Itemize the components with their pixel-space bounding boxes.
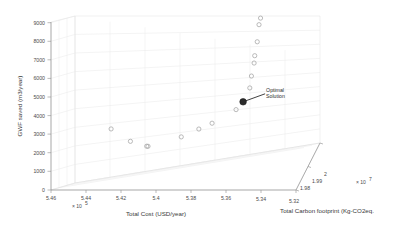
y-tick-label: 8000 <box>33 38 45 44</box>
scatter-point[interactable] <box>255 40 259 44</box>
y-tick-label: 9000 <box>33 20 45 26</box>
y-tick-label: 0 <box>42 187 45 193</box>
z-exponent-base: × 10 <box>356 179 366 185</box>
x-tick-label: 5.34 <box>256 196 266 202</box>
floor-grid <box>51 143 320 190</box>
scatter-point[interactable] <box>252 61 256 65</box>
x-tick-label: 5.32 <box>289 198 299 204</box>
scatter-point[interactable] <box>210 121 214 125</box>
scatter-point[interactable] <box>197 127 201 131</box>
z-tick-label: 1.98 <box>300 185 310 191</box>
scatter-point[interactable] <box>258 16 262 20</box>
y-tick-label: 3000 <box>33 131 45 137</box>
z-tick-label: 1.99 <box>312 178 322 184</box>
x-axis-title: Total Cost (USD/year) <box>126 210 186 217</box>
scatter-point[interactable] <box>109 127 113 131</box>
y-tick-label: 7000 <box>33 57 45 63</box>
x-exponent-base: × 10 <box>72 203 82 209</box>
x-tick-label: 5.38 <box>186 195 196 201</box>
x-exponent-power: 5 <box>85 200 88 206</box>
x-tick-label: 5.36 <box>221 195 231 201</box>
left-wall-grid <box>51 16 75 190</box>
scatter-point[interactable] <box>257 23 261 27</box>
y-axis-ticks <box>48 23 52 190</box>
optimal-solution-label-line2: Solution <box>266 93 285 99</box>
figure-3d-scatter-plot: 0 1000 2000 3000 4000 5000 6000 7000 800… <box>0 0 393 232</box>
optimal-solution-marker[interactable] <box>240 98 247 105</box>
y-axis-title: GWF saved (m3/year) <box>16 76 23 137</box>
plot-canvas: 0 1000 2000 3000 4000 5000 6000 7000 800… <box>0 0 393 232</box>
y-tick-label: 6000 <box>33 75 45 81</box>
z-tick-label: 2 <box>324 171 327 177</box>
x-axis-tick-labels: 5.46 5.44 5.42 5.4 5.38 5.36 5.34 5.32 <box>46 195 299 204</box>
z-exponent-power: 7 <box>369 176 372 182</box>
y-tick-label: 4000 <box>33 113 45 119</box>
z-axis-title: Total Carbon footprint (Kg-CO2eq. <box>280 207 374 214</box>
x-tick-label: 5.46 <box>46 195 56 201</box>
x-axis-exponent: × 10 5 <box>72 200 88 209</box>
back-wall-grid <box>75 16 320 183</box>
scatter-point[interactable] <box>128 139 132 143</box>
y-tick-label: 5000 <box>33 94 45 100</box>
x-axis-ticks <box>51 190 296 193</box>
z-axis-exponent: × 10 7 <box>356 176 372 185</box>
scatter-point[interactable] <box>253 54 257 58</box>
x-tick-label: 5.42 <box>116 195 126 201</box>
x-tick-label: 5.4 <box>152 195 159 201</box>
optimal-solution-annotation: Optimal Solution <box>240 87 285 105</box>
y-axis-tick-labels: 0 1000 2000 3000 4000 5000 6000 7000 800… <box>33 20 45 193</box>
y-tick-label: 2000 <box>33 150 45 156</box>
plot-3d-box <box>51 16 320 190</box>
y-tick-label: 1000 <box>33 168 45 174</box>
